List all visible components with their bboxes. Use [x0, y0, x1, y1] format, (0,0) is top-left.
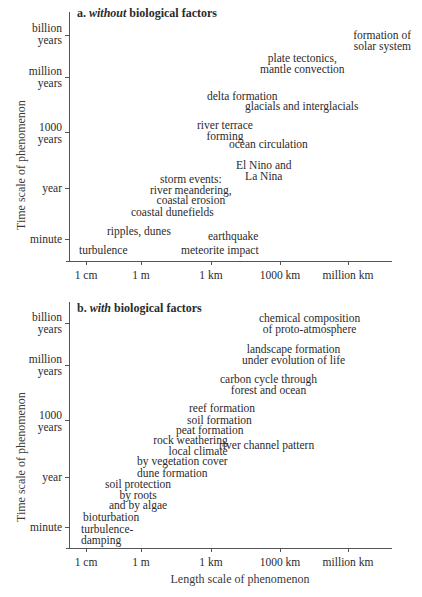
phenomenon-label: storm events: river meandering, coastal … — [150, 174, 232, 206]
x-tick-label: 1 m — [132, 556, 150, 568]
phenomenon-label: landscape formation under evolution of l… — [242, 344, 345, 365]
y-tick-label: million years — [29, 65, 62, 89]
panel-a-title: a. without biological factors — [77, 6, 217, 21]
xtick — [86, 548, 87, 552]
y-tick-label: year — [42, 471, 62, 483]
xtick — [280, 548, 281, 552]
xtick — [86, 261, 87, 265]
ytick — [65, 527, 69, 528]
x-tick-label: 1 cm — [75, 556, 98, 568]
phenomenon-label: turbulence- damping — [81, 524, 133, 545]
ytick — [65, 239, 69, 240]
y-tick-label: 1000 years — [38, 121, 62, 145]
phenomenon-label: carbon cycle through forest and ocean — [220, 374, 317, 395]
panel-a-y-axis — [69, 12, 70, 262]
y-tick-label: year — [42, 182, 62, 194]
phenomenon-label: bioturbation — [83, 512, 139, 523]
phenomenon-label: coastal dunefields — [131, 207, 214, 218]
phenomenon-label: soil protection by roots and by algae — [105, 479, 171, 511]
phenomenon-label: reef formation — [189, 403, 255, 414]
phenomenon-label: plate tectonics, mantle convection — [260, 53, 345, 74]
panel-b-x-axis-title: Length scale of phenomenon — [171, 572, 310, 587]
phenomenon-label: ocean circulation — [229, 139, 308, 150]
phenomenon-label: glacials and interglacials — [245, 101, 358, 112]
xtick — [211, 261, 212, 265]
ytick — [65, 365, 69, 366]
y-tick-label: 1000 years — [38, 409, 62, 433]
x-tick-label: 1000 km — [260, 269, 301, 281]
phenomenon-label: ripples, dunes — [107, 226, 171, 237]
xtick — [141, 548, 142, 552]
panel-b-x-axis — [66, 548, 392, 549]
phenomenon-label: El Nino and La Nina — [236, 160, 292, 181]
y-tick-label: minute — [30, 521, 62, 533]
xtick — [280, 261, 281, 265]
x-tick-label: million km — [323, 556, 374, 568]
panel-b-y-axis — [69, 302, 70, 549]
ytick — [65, 477, 69, 478]
x-tick-label: 1 km — [199, 269, 222, 281]
xtick — [348, 548, 349, 552]
phenomenon-label: dune formation — [137, 468, 208, 479]
y-tick-label: billion years — [32, 22, 62, 46]
y-tick-label: minute — [30, 233, 62, 245]
ytick — [65, 35, 69, 36]
panel-b-y-axis-title: Time scale of phenomenon — [14, 392, 29, 522]
x-tick-label: 1 m — [132, 269, 150, 281]
y-tick-label: million years — [29, 353, 62, 377]
phenomenon-label: earthquake — [208, 231, 258, 242]
phenomenon-label: meteorite impact — [181, 245, 259, 256]
xtick — [141, 261, 142, 265]
xtick — [211, 548, 212, 552]
x-tick-label: 1 cm — [75, 269, 98, 281]
phenomenon-label: river channel pattern — [219, 440, 314, 451]
phenomenon-label: rock weathering local climate by vegetat… — [137, 435, 228, 467]
x-tick-label: 1000 km — [260, 556, 301, 568]
panel-a-y-axis-title: Time scale of phenomenon — [14, 100, 29, 230]
ytick — [65, 188, 69, 189]
x-tick-label: 1 km — [199, 556, 222, 568]
phenomenon-label: turbulence — [79, 245, 128, 256]
ytick — [65, 132, 69, 133]
phenomenon-label: chemical composition of proto-atmosphere — [259, 313, 360, 334]
panel-a-x-axis — [66, 261, 392, 262]
ytick — [65, 323, 69, 324]
panel-b-title: b. with biological factors — [77, 301, 202, 316]
xtick — [348, 261, 349, 265]
ytick — [65, 420, 69, 421]
y-tick-label: billion years — [32, 311, 62, 335]
ytick — [65, 77, 69, 78]
x-tick-label: million km — [323, 269, 374, 281]
